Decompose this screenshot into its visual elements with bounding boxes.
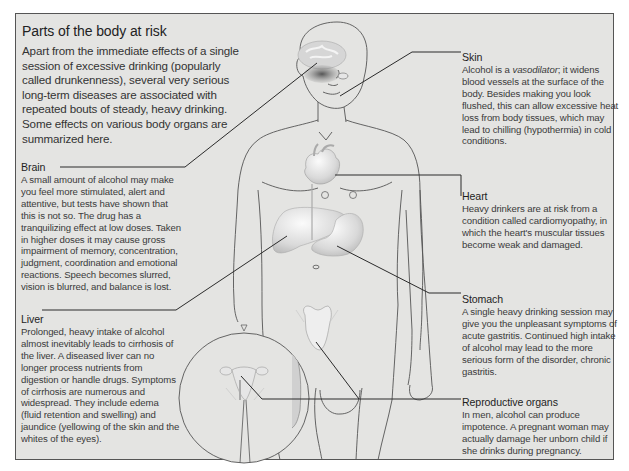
callout-heading: Liver (21, 313, 181, 326)
heart-leader (335, 175, 461, 196)
callout-heading: Reproductive organs (462, 396, 622, 409)
callout-brain: Brain A small amount of alcohol may make… (21, 161, 181, 293)
callout-text: In men, alcohol can produce impotence. A… (462, 409, 622, 457)
callout-heading: Stomach (462, 293, 622, 306)
callout-stomach: Stomach A single heavy drinking session … (462, 293, 622, 377)
callout-heading: Heart (462, 190, 622, 203)
callout-text: Alcohol is a vasodilator; it widens bloo… (462, 64, 622, 147)
callout-text: Heavy drinkers are at risk from a condit… (462, 203, 622, 251)
callout-skin: Skin Alcohol is a vasodilator; it widens… (462, 51, 622, 147)
brain-shade (304, 65, 340, 83)
callout-heading: Brain (21, 161, 181, 174)
callout-reproductive-organs: Reproductive organs In men, alcohol can … (462, 396, 622, 457)
heart-organ (305, 149, 340, 184)
intro-paragraph: Apart from the immediate effects of a si… (22, 44, 250, 146)
callout-text: Prolonged, heavy intake of alcohol almos… (21, 326, 181, 445)
callout-liver: Liver Prolonged, heavy intake of alcohol… (21, 313, 181, 445)
callout-heart: Heart Heavy drinkers are at risk from a … (462, 190, 622, 251)
reproductive-leader-male (316, 342, 461, 399)
callout-heading: Skin (462, 51, 622, 64)
callout-text: A single heavy drinking session may give… (462, 306, 622, 377)
callout-text: A small amount of alcohol may make you f… (21, 174, 181, 293)
navel-inset (241, 325, 247, 331)
navel (313, 265, 319, 269)
page-title: Parts of the body at risk (22, 23, 167, 39)
stomach-leader (337, 246, 461, 293)
skin-leader (340, 52, 461, 96)
